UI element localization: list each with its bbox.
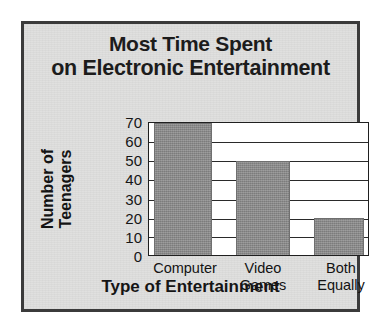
- chart-title-line-2: on Electronic Entertainment: [24, 56, 357, 81]
- bar-video-games: [236, 161, 290, 256]
- y-axis-label-line-2: Teenagers: [57, 149, 75, 229]
- y-tick-10: 10: [90, 230, 142, 245]
- bar-both-equally: [314, 218, 364, 256]
- plot-area: [148, 122, 369, 256]
- chart-screenshot: Most Time Spent on Electronic Entertainm…: [0, 0, 381, 334]
- y-tick-70: 70: [90, 115, 142, 130]
- y-axis-label: Number of Teenagers: [38, 120, 76, 258]
- bars-layer: [149, 123, 368, 255]
- y-tick-50: 50: [90, 153, 142, 168]
- bar-computer: [154, 123, 212, 255]
- y-tick-60: 60: [90, 134, 142, 149]
- y-tick-40: 40: [90, 172, 142, 187]
- y-axis-label-text: Number of Teenagers: [39, 149, 75, 229]
- chart-title: Most Time Spent on Electronic Entertainm…: [24, 31, 357, 81]
- y-axis-label-line-1: Number of: [39, 149, 57, 229]
- y-tick-30: 30: [90, 192, 142, 207]
- chart-title-line-1: Most Time Spent: [24, 31, 357, 56]
- y-tick-0: 0: [90, 249, 142, 264]
- chart-card: Most Time Spent on Electronic Entertainm…: [21, 21, 360, 312]
- x-tick-computer: Computer: [140, 260, 230, 277]
- y-axis-tick-labels: 70 60 50 40 30 20 10 0: [90, 114, 142, 266]
- x-axis-label: Type of Entertainment: [24, 277, 357, 297]
- y-tick-20: 20: [90, 211, 142, 226]
